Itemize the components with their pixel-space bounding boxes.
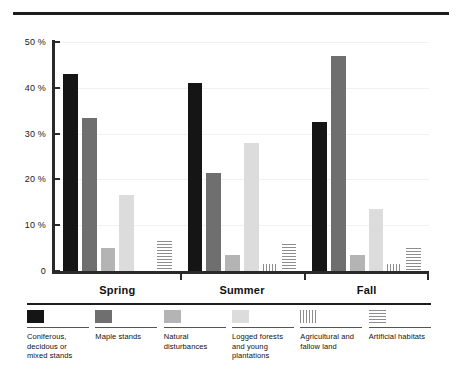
y-axis-tick-label: 10 % — [25, 220, 55, 230]
legend-item-label: Agricultural and fallow land — [300, 332, 362, 351]
bar[interactable] — [406, 248, 421, 271]
legend-item[interactable]: Coniferous, decidous or mixed stands — [27, 310, 89, 361]
bar[interactable] — [119, 195, 134, 271]
bar[interactable] — [188, 83, 203, 271]
bar[interactable] — [82, 118, 97, 271]
legend-item-label: Natural disturbances — [164, 332, 226, 351]
bar[interactable] — [206, 173, 221, 271]
bar[interactable] — [63, 74, 78, 271]
solid-black-swatch — [27, 310, 44, 323]
vertical-stripe-swatch — [300, 310, 317, 323]
legend-item-label: Logged forests and young plantations — [232, 332, 294, 361]
bar[interactable] — [312, 122, 327, 271]
solid-dark-gray-swatch — [95, 310, 112, 323]
y-axis-tick-label: 50 % — [25, 37, 55, 47]
legend-item[interactable]: Logged forests and young plantations — [232, 310, 294, 361]
x-axis-group-label: Fall — [304, 284, 429, 296]
bar[interactable] — [225, 255, 240, 271]
bar-group: Spring — [55, 42, 180, 271]
bar[interactable] — [369, 209, 384, 271]
solid-light-gray-swatch — [232, 310, 249, 323]
x-axis — [52, 271, 429, 274]
bar-group: Summer — [180, 42, 305, 271]
legend: Coniferous, decidous or mixed standsMapl… — [27, 303, 431, 371]
legend-item-divider — [27, 327, 89, 328]
bar[interactable] — [387, 264, 402, 271]
x-axis-group-label: Spring — [55, 284, 180, 296]
x-axis-group-separator — [304, 271, 306, 280]
header-divider — [13, 12, 449, 15]
x-axis-group-separator — [180, 271, 182, 280]
horizontal-stripe-swatch — [369, 310, 386, 323]
plot-area: 010 %20 %30 %40 %50 % SpringSummerFall — [55, 42, 429, 271]
bar-group: Fall — [304, 42, 429, 271]
legend-item-divider — [95, 327, 157, 328]
legend-item-divider — [369, 327, 431, 328]
bar-group-bars — [304, 42, 429, 271]
x-axis-end-tick — [427, 271, 429, 280]
legend-item-label: Coniferous, decidous or mixed stands — [27, 332, 89, 361]
bar[interactable] — [101, 248, 116, 271]
y-axis-tick-label: 30 % — [25, 129, 55, 139]
bar[interactable] — [263, 264, 278, 271]
solid-mid-gray-swatch — [164, 310, 181, 323]
legend-item-divider — [300, 327, 362, 328]
bar[interactable] — [157, 241, 172, 271]
y-axis-tick-label: 0 — [41, 266, 55, 276]
legend-item[interactable]: Artificial habitats — [369, 310, 431, 361]
legend-items: Coniferous, decidous or mixed standsMapl… — [27, 310, 431, 361]
title-clipped — [13, 0, 449, 8]
legend-item-label: Artificial habitats — [369, 332, 431, 342]
y-axis-tick-label: 40 % — [25, 83, 55, 93]
legend-item-divider — [232, 327, 294, 328]
bar[interactable] — [282, 244, 297, 271]
legend-item[interactable]: Natural disturbances — [164, 310, 226, 361]
legend-item[interactable]: Maple stands — [95, 310, 157, 361]
bar-chart: 010 %20 %30 %40 %50 % SpringSummerFall C… — [0, 0, 458, 375]
legend-item-label: Maple stands — [95, 332, 157, 342]
bar[interactable] — [244, 143, 259, 271]
bar-group-bars — [180, 42, 305, 271]
bar-groups: SpringSummerFall — [55, 42, 429, 271]
y-axis-tick-label: 20 % — [25, 174, 55, 184]
legend-divider — [27, 303, 431, 305]
legend-item-divider — [164, 327, 226, 328]
bar[interactable] — [350, 255, 365, 271]
x-axis-group-label: Summer — [180, 284, 305, 296]
bar[interactable] — [331, 56, 346, 271]
bar-group-bars — [55, 42, 180, 271]
legend-item[interactable]: Agricultural and fallow land — [300, 310, 362, 361]
